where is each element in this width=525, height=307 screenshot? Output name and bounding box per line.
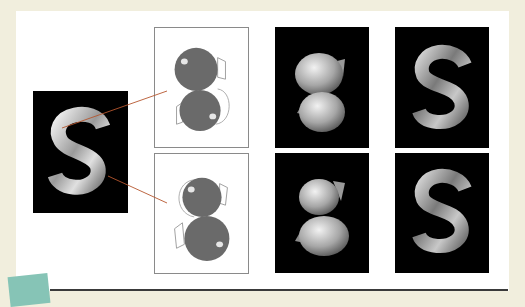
blob-render-icon <box>275 153 369 273</box>
source-chrome-s-panel <box>33 91 128 213</box>
chrome-s-icon <box>395 27 489 148</box>
blob-sketch-icon <box>155 154 248 273</box>
chrome-s-panel-bottom <box>395 153 489 273</box>
sketch-panel-top <box>154 27 249 148</box>
blob-render-panel-top <box>275 27 369 148</box>
sketch-panel-bottom <box>154 153 249 274</box>
sticky-note-tab <box>8 273 51 307</box>
chrome-s-panel-top <box>395 27 489 148</box>
blob-sketch-icon <box>155 28 248 147</box>
blob-render-icon <box>275 27 369 148</box>
chrome-s-icon <box>33 91 128 213</box>
blob-render-panel-bottom <box>275 153 369 273</box>
chrome-s-icon <box>395 153 489 273</box>
bottom-rule-divider <box>50 289 508 291</box>
